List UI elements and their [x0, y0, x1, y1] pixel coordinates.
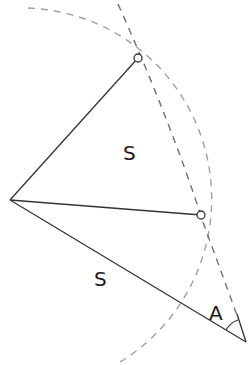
geometry-diagram: S S A [0, 0, 252, 365]
angle-marker [226, 320, 238, 330]
label-angle: A [209, 301, 223, 325]
top-point [134, 54, 142, 62]
side-left-to-middle [10, 200, 201, 215]
middle-point [197, 211, 205, 219]
side-left-to-top [10, 58, 138, 200]
label-lower-side: S [94, 267, 107, 291]
label-upper-side: S [123, 141, 136, 165]
construction-line [118, 4, 238, 318]
construction-arc [28, 8, 212, 362]
